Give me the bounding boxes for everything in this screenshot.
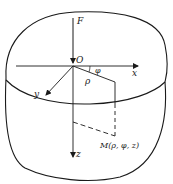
body-outline (6, 12, 168, 181)
diagram-canvas: F O x y z ρ φ M(ρ, φ, z) (0, 0, 173, 184)
label-z: z (75, 149, 81, 159)
label-phi: φ (95, 66, 101, 75)
label-force: F (76, 16, 84, 26)
projection-dashed (73, 122, 115, 136)
half-space-diagram: F O x y z ρ φ M(ρ, φ, z) (0, 0, 173, 184)
label-y: y (33, 89, 40, 99)
label-x: x (132, 68, 137, 78)
y-axis (46, 66, 73, 95)
label-rho: ρ (84, 76, 91, 86)
label-point-m: M(ρ, φ, z) (99, 141, 139, 150)
label-origin: O (76, 55, 84, 65)
phi-arc (89, 66, 90, 72)
rho-line (73, 66, 115, 82)
